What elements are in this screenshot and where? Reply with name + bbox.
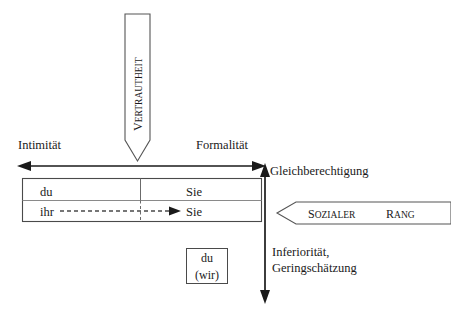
vertrautheit-label-rest: ERTRAUTHEIT	[134, 57, 144, 122]
table-cell-du: du	[40, 185, 53, 200]
rang-label-rest: ANG	[394, 210, 415, 220]
sozialer-label-rest: OZIALER	[315, 210, 356, 220]
axis-label-inferioritaet-line2: Geringschätzung	[272, 261, 357, 277]
sozialer-rang-label: SOZIALER	[308, 207, 356, 221]
rang-label: RANG	[386, 207, 415, 221]
du-wir-box-line1: du	[187, 250, 227, 267]
du-wir-box-line2: (wir)	[187, 267, 227, 284]
axis-label-inferioritaet-line1: Inferiorität,	[272, 245, 357, 261]
table-cell-sie-formal-1: Sie	[186, 185, 202, 200]
du-wir-box: du (wir)	[186, 248, 228, 284]
axis-label-intimitaet: Intimität	[18, 138, 61, 154]
sozialer-label-initial: S	[308, 207, 315, 221]
rang-label-initial: R	[386, 207, 394, 221]
axis-label-formalitaet: Formalität	[196, 138, 248, 154]
axis-label-inferioritaet-group: Inferiorität, Geringschätzung	[272, 245, 357, 276]
vertrautheit-label: VERTRAUTHEIT	[131, 57, 145, 131]
diagram-canvas: VERTRAUTHEIT SOZIALER RANG Intimität For…	[0, 0, 451, 316]
axis-label-gleichberechtigung: Gleichberechtigung	[270, 164, 369, 180]
vertrautheit-label-initial: V	[131, 122, 145, 131]
table-cell-ihr: ihr	[40, 205, 54, 220]
table-cell-sie-formal-2: Sie	[186, 205, 202, 220]
